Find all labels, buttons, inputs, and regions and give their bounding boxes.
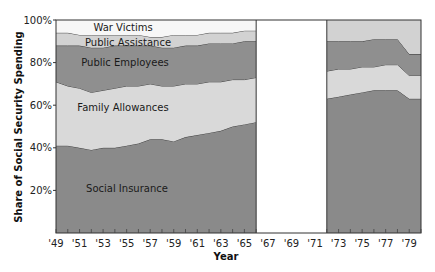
x-tick-label: '51 — [72, 238, 87, 249]
y-axis: 20%40%60%80%100% — [23, 15, 56, 196]
x-tick-label: '77 — [378, 238, 393, 249]
x-tick-label: '49 — [48, 238, 63, 249]
x-axis-title: Year — [213, 251, 239, 262]
x-tick-label: '71 — [307, 238, 322, 249]
y-tick-label: 20% — [30, 185, 52, 196]
label-social-insurance: Social Insurance — [86, 183, 168, 194]
x-tick-label: '65 — [237, 238, 252, 249]
x-tick-label: '57 — [142, 238, 157, 249]
label-family-allowances: Family Allowances — [77, 102, 168, 113]
label-war-victims: War Victims — [93, 22, 152, 33]
y-tick-label: 40% — [30, 142, 52, 153]
label-public-employees: Public Employees — [81, 57, 169, 68]
x-tick-label: '53 — [95, 238, 110, 249]
y-tick-label: 100% — [23, 15, 52, 26]
plot-areas — [56, 20, 421, 233]
x-tick-label: '55 — [119, 238, 134, 249]
x-tick-label: '67 — [260, 238, 275, 249]
data-gap — [256, 20, 327, 233]
x-tick-label: '63 — [213, 238, 228, 249]
y-tick-label: 60% — [30, 100, 52, 111]
x-tick-label: '75 — [354, 238, 369, 249]
x-tick-label: '69 — [284, 238, 299, 249]
x-tick-label: '59 — [166, 238, 181, 249]
y-axis-title: Share of Social Security Spending — [13, 31, 24, 222]
area-social-insurance — [327, 90, 421, 233]
x-tick-label: '73 — [331, 238, 346, 249]
x-tick-label: '79 — [401, 238, 416, 249]
label-public-assistance: Public Assistance — [85, 37, 171, 48]
stacked-area-chart: 20%40%60%80%100% '49'51'53'55'57'59'61'6… — [0, 0, 435, 272]
x-tick-label: '61 — [190, 238, 205, 249]
y-tick-label: 80% — [30, 57, 52, 68]
